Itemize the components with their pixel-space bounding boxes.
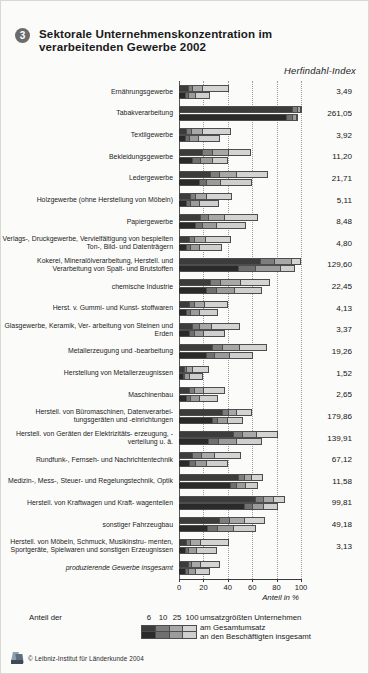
bar-segment-100: [189, 374, 201, 379]
bar-segment-6: [179, 223, 195, 228]
bar-umsatz: [179, 128, 231, 135]
leibniz-institut-logo-icon: [11, 652, 24, 664]
chart-row: Holzgewerbe (ohne Herstellung von Möbeln…: [1, 189, 369, 211]
legend-band-umsatz: [141, 625, 197, 632]
chart-row: Rundfunk-, Fernseh- und Nachrichtentechn…: [1, 449, 369, 471]
bar-group: [179, 279, 301, 294]
bar-segment-25: [194, 331, 204, 336]
bar-segment-10: [192, 453, 201, 458]
bar-segment-25: [228, 410, 237, 415]
chart-row: Maschinenbau2,65: [1, 384, 369, 406]
bar-segment-100: [202, 129, 230, 134]
bar-beschaeftigte: [179, 568, 210, 575]
bar-beschaeftigte: [179, 503, 278, 510]
chart-row: Bekleidungsgewerbe11,20: [1, 146, 369, 168]
bar-beschaeftigte: [179, 157, 228, 164]
bar-segment-100: [206, 194, 232, 199]
x-tick-label-20: 20: [199, 583, 207, 592]
bar-segment-25: [206, 180, 221, 185]
bar-umsatz: [179, 561, 220, 568]
legend-swatch-25: [169, 632, 183, 638]
legend-class-25: 25: [173, 613, 182, 622]
category-label: Bekleidungsgewerbe: [1, 153, 179, 161]
bar-umsatz: [179, 517, 265, 524]
legend-class-6: 6: [147, 613, 151, 622]
bar-segment-10: [233, 432, 243, 437]
bar-segment-100: [206, 461, 227, 466]
chart-row: Verlags-, Druckgewerbe, Vervielfältigung…: [1, 232, 369, 254]
bar-segment-25: [242, 432, 255, 437]
bar-segment-6: [179, 504, 244, 509]
figure-number-badge: 3: [15, 28, 30, 43]
herfindahl-value: 139,91: [301, 434, 363, 443]
bar-segment-6: [179, 483, 230, 488]
legend-class-10: 10: [159, 613, 168, 622]
x-tick-80: [277, 579, 278, 582]
category-label: Maschinenbau: [1, 391, 179, 399]
herfindahl-value: 261,05: [301, 109, 363, 118]
legend-prefix: Anteil der: [29, 613, 62, 622]
bar-segment-25: [194, 302, 204, 307]
bar-group: [179, 106, 301, 121]
chart-row: Medizin-, Mess-, Steuer- und Regelungste…: [1, 471, 369, 493]
legend-swatch-10: [155, 632, 169, 638]
chart-row: Ernährungsgewerbe3,49: [1, 81, 369, 103]
bar-segment-25: [190, 310, 199, 315]
bar-beschaeftigte: [179, 265, 295, 272]
page-title: Sektorale Unternehmenskonzentration im v…: [39, 27, 356, 54]
bar-umsatz: [179, 149, 251, 156]
x-tick-label-100: 100: [295, 583, 308, 592]
category-label: chemische Industrie: [1, 283, 179, 291]
bar-segment-10: [255, 497, 264, 502]
bar-segment-6: [179, 288, 206, 293]
legend-class-100: 100: [185, 613, 198, 622]
category-label: Glasgewerbe, Keramik, Ver- arbeitung von…: [1, 322, 179, 338]
bar-umsatz: [179, 323, 240, 330]
bar-segment-10: [238, 266, 255, 271]
bar-segment-100: [205, 237, 231, 242]
bar-group: [179, 496, 301, 511]
bar-segment-6: [179, 310, 186, 315]
bar-segment-100: [236, 410, 251, 415]
bar-beschaeftigte: [179, 482, 258, 489]
bar-segment-6: [179, 396, 186, 401]
bar-segment-100: [273, 497, 284, 502]
bar-segment-6: [179, 129, 186, 134]
bar-segment-25: [194, 388, 204, 393]
category-label: sonstiger Fahrzeugbau: [1, 521, 179, 529]
herfindahl-value: 99,81: [301, 498, 363, 507]
bar-beschaeftigte: [179, 244, 222, 251]
bar-umsatz: [179, 279, 270, 286]
bar-segment-25: [199, 324, 211, 329]
chart-rows: Ernährungsgewerbe3,49Tabakverarbeitung26…: [1, 81, 369, 579]
category-label: Medizin-, Mess-, Steuer- und Regelungste…: [1, 477, 179, 485]
bar-segment-100: [234, 288, 261, 293]
x-tick-20: [203, 579, 204, 582]
bar-segment-6: [179, 86, 188, 91]
bar-segment-25: [212, 150, 228, 155]
category-label: Tabakverarbeitung: [1, 109, 179, 117]
bar-segment-10: [244, 504, 253, 509]
bar-segment-10: [212, 345, 222, 350]
bar-group: [179, 171, 301, 186]
herfindahl-value: 1,52: [301, 369, 363, 378]
bar-group: [179, 387, 301, 402]
x-tick-label-0: 0: [177, 583, 181, 592]
herfindahl-value: 179,86: [301, 412, 363, 421]
bar-segment-25: [255, 266, 281, 271]
bar-segment-6: [179, 453, 192, 458]
bar-segment-6: [179, 259, 260, 264]
chart-row: Herst. v. Gummi- und Kunst- stoffwaren4,…: [1, 297, 369, 319]
bar-segment-10: [195, 223, 202, 228]
bar-segment-25: [252, 504, 263, 509]
bar-segment-10: [207, 526, 217, 531]
bar-segment-100: [233, 526, 255, 531]
chart-row: Herstellung von Metallerzeugnissen1,52: [1, 362, 369, 384]
bar-umsatz: [179, 431, 278, 438]
bar-beschaeftigte: [179, 114, 298, 121]
bar-segment-25: [188, 569, 195, 574]
bar-beschaeftigte: [179, 222, 246, 229]
chart-area: Ernährungsgewerbe3,49Tabakverarbeitung26…: [1, 81, 369, 581]
bar-segment-6: [179, 245, 186, 250]
bar-beschaeftigte: [179, 417, 243, 424]
